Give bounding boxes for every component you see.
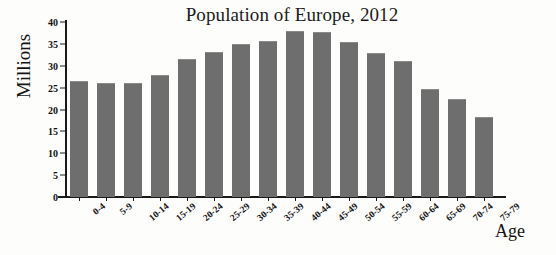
x-axis-tick-mark bbox=[187, 197, 188, 201]
x-axis-tick-label: 50-54 bbox=[363, 201, 386, 223]
x-axis-tick-mark bbox=[349, 197, 350, 201]
x-axis-tick-mark bbox=[403, 197, 404, 201]
y-axis-tick-mark bbox=[60, 87, 65, 88]
x-axis-tick-mark bbox=[376, 197, 377, 201]
x-axis-tick-mark bbox=[106, 197, 107, 201]
x-axis-tick-label: 10-14 bbox=[147, 201, 170, 223]
x-axis-tick-label: 55-59 bbox=[390, 201, 413, 223]
x-axis-tick-mark bbox=[295, 197, 296, 201]
bar bbox=[421, 89, 439, 198]
x-axis-tick-mark bbox=[160, 197, 161, 201]
x-axis-tick-mark bbox=[133, 197, 134, 201]
bar bbox=[97, 83, 115, 197]
y-axis-tick-mark bbox=[60, 197, 65, 198]
x-axis-tick-label: 35-39 bbox=[282, 201, 305, 223]
x-axis-tick-mark bbox=[214, 197, 215, 201]
x-axis-tick-label: 0-4 bbox=[90, 201, 106, 217]
x-axis-tick-label: 25-29 bbox=[228, 201, 251, 223]
bar bbox=[367, 53, 385, 197]
plot-area: 0510152025303540 bbox=[65, 22, 497, 197]
bar bbox=[232, 44, 250, 197]
y-axis-tick-mark bbox=[60, 109, 65, 110]
bar bbox=[70, 81, 88, 197]
bar bbox=[286, 31, 304, 197]
x-axis-tick-mark bbox=[268, 197, 269, 201]
bar bbox=[394, 61, 412, 197]
x-axis-tick-mark bbox=[322, 197, 323, 201]
x-axis-tick-label: 15-19 bbox=[174, 201, 197, 223]
x-axis-tick-label: 30-34 bbox=[255, 201, 278, 223]
x-axis-tick-label: 75-79 bbox=[498, 201, 521, 223]
x-axis-tick-mark bbox=[79, 197, 80, 201]
y-axis-title: Millions bbox=[13, 21, 35, 111]
x-axis-tick-label: 65-69 bbox=[444, 201, 467, 223]
bar bbox=[259, 41, 277, 197]
x-axis-tick-mark bbox=[430, 197, 431, 201]
chart-figure: Population of Europe, 2012 Millions 0510… bbox=[0, 0, 556, 255]
x-axis-tick-mark bbox=[484, 197, 485, 201]
x-axis-tick-label: 70-74 bbox=[471, 201, 494, 223]
y-axis-tick-mark bbox=[60, 153, 65, 154]
bar bbox=[475, 117, 493, 197]
y-axis-tick-mark bbox=[60, 175, 65, 176]
x-axis-tick-label: 60-64 bbox=[417, 201, 440, 223]
x-axis-tick-mark bbox=[241, 197, 242, 201]
x-axis-tick-label: 40-44 bbox=[309, 201, 332, 223]
bar bbox=[124, 83, 142, 197]
y-axis-tick-mark bbox=[60, 22, 65, 23]
bar bbox=[340, 42, 358, 197]
y-axis-tick-mark bbox=[60, 43, 65, 44]
bar bbox=[313, 32, 331, 197]
bar bbox=[151, 75, 169, 197]
x-axis-tick-label: 5-9 bbox=[117, 201, 133, 217]
bar bbox=[178, 59, 196, 197]
bar bbox=[205, 52, 223, 197]
x-axis-tick-label: 45-49 bbox=[336, 201, 359, 223]
y-axis-tick-mark bbox=[60, 65, 65, 66]
bar bbox=[448, 99, 466, 197]
x-axis-tick-label: 20-24 bbox=[201, 201, 224, 223]
x-axis-tick-mark bbox=[457, 197, 458, 201]
y-axis-tick-mark bbox=[60, 131, 65, 132]
x-axis-title: Age bbox=[495, 221, 525, 242]
